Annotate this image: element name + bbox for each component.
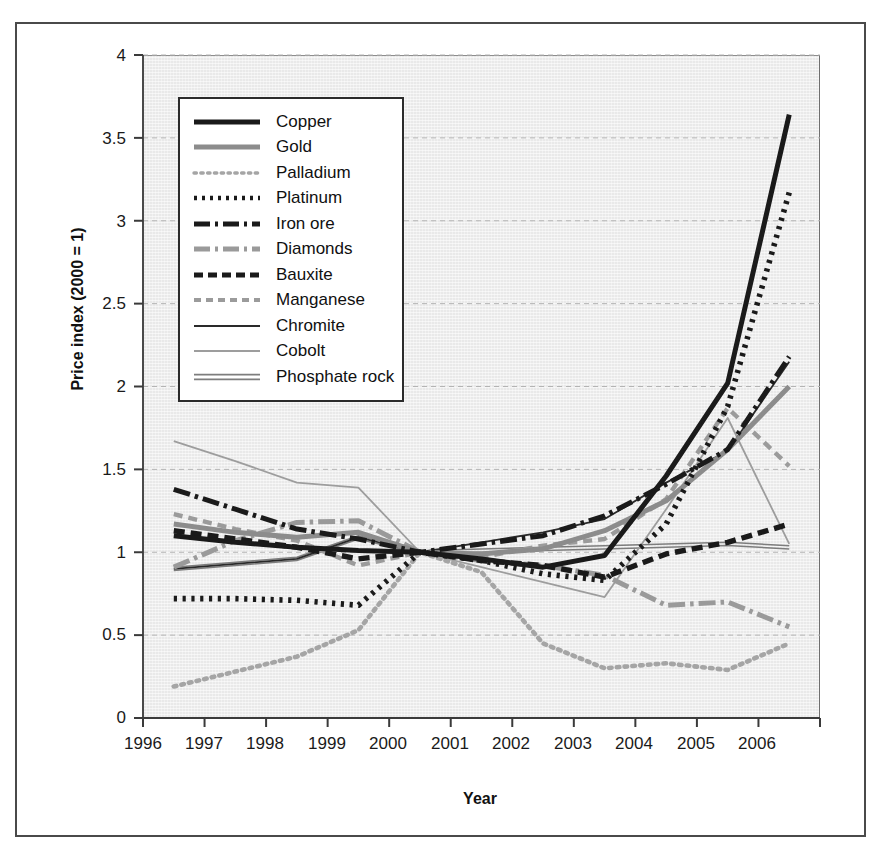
legend-item-iron-ore[interactable]: Iron ore bbox=[180, 211, 402, 237]
figure: 4 3.5 3 2.5 2 1.5 1 0.5 0 1996 1997 1998… bbox=[0, 0, 883, 855]
chart-canvas bbox=[0, 0, 883, 855]
legend-swatch-diamonds bbox=[192, 242, 262, 256]
legend-item-cobolt[interactable]: Cobolt bbox=[180, 339, 402, 365]
legend-item-diamonds[interactable]: Diamonds bbox=[180, 237, 402, 263]
legend-label: Iron ore bbox=[276, 214, 335, 234]
legend-swatch-chromite bbox=[192, 319, 262, 333]
legend-label: Platinum bbox=[276, 188, 342, 208]
legend-swatch-manganese bbox=[192, 293, 262, 307]
legend-item-palladium[interactable]: Palladium bbox=[180, 160, 402, 186]
legend-swatch-cobolt bbox=[192, 344, 262, 358]
legend-label: Manganese bbox=[276, 290, 365, 310]
legend-label: Gold bbox=[276, 137, 312, 157]
legend-label: Phosphate rock bbox=[276, 367, 394, 387]
legend-swatch-bauxite bbox=[192, 268, 262, 282]
legend-item-copper[interactable]: Copper bbox=[180, 109, 402, 135]
legend-item-manganese[interactable]: Manganese bbox=[180, 288, 402, 314]
legend-item-platinum[interactable]: Platinum bbox=[180, 186, 402, 212]
legend-swatch-gold bbox=[192, 140, 262, 154]
legend-label: Palladium bbox=[276, 163, 351, 183]
legend-item-bauxite[interactable]: Bauxite bbox=[180, 262, 402, 288]
legend-label: Copper bbox=[276, 112, 332, 132]
legend-swatch-platinum bbox=[192, 191, 262, 205]
legend: Copper Gold Palladium Platinum Iron ore bbox=[178, 97, 404, 402]
legend-item-phosphate-rock[interactable]: Phosphate rock bbox=[180, 364, 402, 390]
legend-label: Chromite bbox=[276, 316, 345, 336]
legend-label: Cobolt bbox=[276, 341, 325, 361]
legend-item-gold[interactable]: Gold bbox=[180, 135, 402, 161]
legend-label: Bauxite bbox=[276, 265, 333, 285]
legend-swatch-palladium bbox=[192, 166, 262, 180]
legend-swatch-iron-ore bbox=[192, 217, 262, 231]
legend-label: Diamonds bbox=[276, 239, 353, 259]
legend-swatch-copper bbox=[192, 115, 262, 129]
legend-swatch-phosphate-rock bbox=[192, 370, 262, 384]
legend-item-chromite[interactable]: Chromite bbox=[180, 313, 402, 339]
